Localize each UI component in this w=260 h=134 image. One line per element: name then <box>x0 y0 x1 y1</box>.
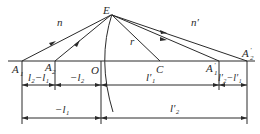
dim-l2-prime: l′₂ <box>170 102 179 114</box>
svg-text:′: ′ <box>214 61 216 69</box>
radius-line <box>112 15 160 61</box>
medium-n-prime-label: n′ <box>191 16 200 28</box>
dim-l2p-minus-l1p: l′₂−l′₁ <box>218 72 242 83</box>
dim-l2-minus-l1: l₂−l₁ <box>28 71 49 83</box>
dim-l1-prime: l′₁ <box>146 71 155 83</box>
svg-text:1: 1 <box>20 70 24 78</box>
svg-text:1: 1 <box>214 69 218 77</box>
ray-arrow-2 <box>74 40 80 47</box>
medium-n-label: n <box>57 16 63 28</box>
refracted-ray-1 <box>112 15 219 61</box>
radius-r-label: r <box>130 35 135 47</box>
incident-ray-1 <box>22 15 111 61</box>
point-e-label: E <box>102 4 110 16</box>
svg-text:A: A <box>11 63 19 75</box>
dimension-row-2: −l₁ l′₂ <box>22 102 247 120</box>
refraction-diagram: E O C A 1 A 2 A 1 ′ A 2 ′ n n′ r l₂−l₁ −… <box>0 0 260 134</box>
svg-text:A: A <box>241 47 249 59</box>
dim-minus-l1: −l₁ <box>55 103 69 115</box>
incident-ray-2 <box>55 15 111 61</box>
point-c-label: C <box>156 63 164 75</box>
svg-text:2: 2 <box>250 54 254 62</box>
dim-minus-l2: −l₂ <box>70 71 84 83</box>
point-a1-prime-label: A 1 ′ <box>205 61 218 77</box>
svg-text:′: ′ <box>250 46 252 54</box>
svg-text:2: 2 <box>52 68 56 76</box>
spherical-surface <box>105 14 113 112</box>
point-o-label: O <box>91 64 99 76</box>
svg-text:A: A <box>205 62 213 74</box>
